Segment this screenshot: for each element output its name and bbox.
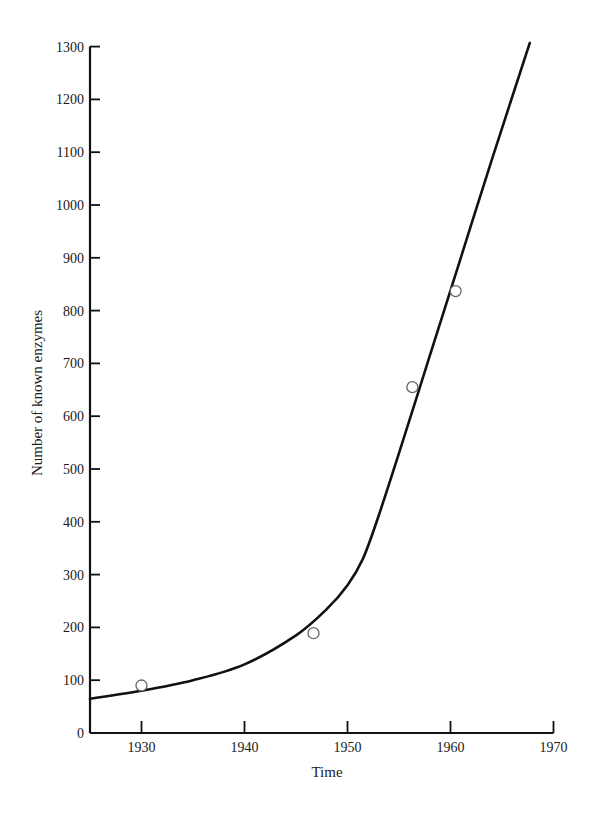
y-tick-label: 0 [77, 726, 84, 741]
y-tick-label: 300 [63, 568, 84, 583]
y-tick-label: 100 [63, 673, 84, 688]
y-tick-label: 1300 [56, 40, 84, 55]
x-axis-title: Time [311, 764, 342, 780]
y-tick-label: 900 [63, 251, 84, 266]
x-axis-ticks: 19301940195019601970 [128, 721, 568, 755]
y-tick-label: 1100 [57, 145, 84, 160]
data-point-marker [308, 628, 319, 639]
y-tick-label: 1000 [56, 198, 84, 213]
y-tick-label: 400 [63, 515, 84, 530]
data-point-marker [136, 680, 147, 691]
y-axis-title: Number of known enzymes [29, 310, 45, 476]
data-point-marker [450, 286, 461, 297]
x-tick-label: 1970 [540, 740, 568, 755]
y-tick-label: 200 [63, 620, 84, 635]
data-point-marker [407, 382, 418, 393]
y-axis-ticks: 0100200300400500600700800900100011001200… [56, 40, 100, 741]
x-tick-label: 1950 [334, 740, 362, 755]
y-tick-label: 800 [63, 304, 84, 319]
x-tick-label: 1940 [231, 740, 259, 755]
y-tick-label: 1200 [56, 92, 84, 107]
enzyme-growth-chart: 0100200300400500600700800900100011001200… [0, 0, 599, 819]
y-tick-label: 700 [63, 356, 84, 371]
data-point-markers [136, 286, 461, 691]
x-tick-label: 1960 [437, 740, 465, 755]
y-tick-label: 500 [63, 462, 84, 477]
fitted-curve [90, 43, 530, 699]
y-tick-label: 600 [63, 409, 84, 424]
x-tick-label: 1930 [128, 740, 156, 755]
